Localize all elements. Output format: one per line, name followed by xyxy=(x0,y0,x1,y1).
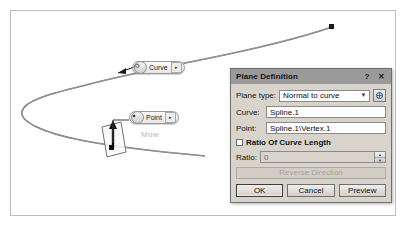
point-dot-icon xyxy=(131,111,144,124)
curve-row: Curve: Spline.1 xyxy=(236,106,386,118)
spline-endpoint-marker xyxy=(329,24,334,29)
chevron-down-icon[interactable]: ▼ xyxy=(358,90,369,101)
ok-button[interactable]: OK xyxy=(236,184,283,197)
close-icon[interactable]: ✕ xyxy=(374,69,388,84)
curve-input[interactable]: Spline.1 xyxy=(266,106,386,118)
ratio-row: Ratio: 0 ▲ ▼ xyxy=(236,151,386,163)
ratio-of-curve-length-label: Ratio Of Curve Length xyxy=(246,138,331,147)
plane-type-value: Normal to curve xyxy=(283,90,358,101)
ratio-of-curve-length-row[interactable]: Ratio Of Curve Length xyxy=(236,138,386,147)
curve-annotation-menu-arrow[interactable]: ▸ xyxy=(171,62,182,73)
curve-annotation-label: Curve xyxy=(149,62,171,73)
ratio-of-curve-length-checkbox[interactable] xyxy=(236,139,243,146)
cancel-button[interactable]: Cancel xyxy=(287,184,334,197)
dialog-button-row: OK Cancel Preview xyxy=(236,184,386,197)
point-label: Point: xyxy=(236,124,263,133)
stepper-down-icon[interactable]: ▼ xyxy=(375,158,385,163)
reverse-direction-button: Reverse Direction xyxy=(236,167,386,179)
plane-type-label: Plane type: xyxy=(236,91,276,100)
dialog-titlebar[interactable]: Plane Definition ? ✕ xyxy=(231,69,391,84)
curve-leader-arrowhead xyxy=(118,68,126,74)
point-annotation-label: Point xyxy=(146,112,165,123)
dialog-body: Plane type: Normal to curve ▼ Curve: Spl… xyxy=(231,84,391,202)
ratio-label: Ratio: xyxy=(236,153,257,162)
point-marker xyxy=(109,145,114,150)
plane-definition-dialog[interactable]: Plane Definition ? ✕ Plane type: Normal … xyxy=(230,68,392,203)
curve-label: Curve: xyxy=(236,108,263,117)
preview-button[interactable]: Preview xyxy=(339,184,386,197)
ghost-plane-label: Mow xyxy=(141,130,159,139)
point-row: Point: Spline.1\Vertex.1 xyxy=(236,122,386,134)
point-input[interactable]: Spline.1\Vertex.1 xyxy=(266,122,386,134)
point-annotation[interactable]: Point ▸ xyxy=(129,111,179,124)
plane-type-options-icon[interactable] xyxy=(373,89,386,102)
plane-type-row: Plane type: Normal to curve ▼ xyxy=(236,89,386,102)
dialog-title: Plane Definition xyxy=(236,69,360,84)
point-annotation-menu-arrow[interactable]: ▸ xyxy=(165,112,176,123)
ratio-input[interactable]: 0 xyxy=(260,151,375,163)
curve-annotation[interactable]: Curve ▸ xyxy=(132,61,185,74)
spline-curve-icon xyxy=(134,61,147,74)
ratio-stepper[interactable]: ▲ ▼ xyxy=(375,151,386,163)
screenshot-root: Curve ▸ Point ▸ Mow Plane Definition ? ✕ xyxy=(0,0,409,232)
plane-type-select[interactable]: Normal to curve ▼ xyxy=(279,90,370,102)
help-icon[interactable]: ? xyxy=(360,69,374,84)
